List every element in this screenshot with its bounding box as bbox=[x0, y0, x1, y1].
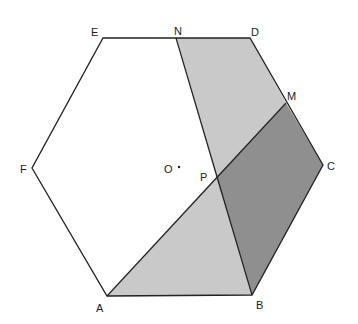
label-m: M bbox=[287, 90, 296, 102]
label-a: A bbox=[96, 302, 104, 314]
label-p: P bbox=[200, 171, 207, 183]
label-c: C bbox=[327, 160, 335, 172]
label-e: E bbox=[91, 26, 98, 38]
label-f: F bbox=[20, 163, 27, 175]
label-d: D bbox=[251, 26, 259, 38]
hexagon-diagram: E N D M F C O P A B bbox=[0, 0, 358, 324]
label-n: N bbox=[174, 25, 182, 37]
label-b: B bbox=[256, 299, 263, 311]
label-o: O bbox=[164, 163, 173, 175]
center-point-o bbox=[178, 166, 180, 168]
